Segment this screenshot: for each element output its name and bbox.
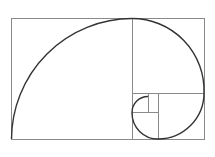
golden-spiral-diagram bbox=[0, 0, 215, 157]
outer-rectangle bbox=[12, 19, 205, 140]
spiral-curve bbox=[12, 18, 205, 139]
grid-lines bbox=[12, 19, 205, 140]
